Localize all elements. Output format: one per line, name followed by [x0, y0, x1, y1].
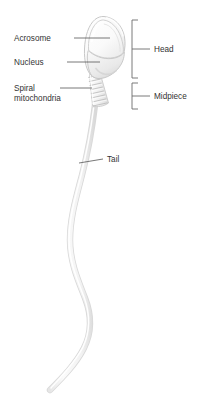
sperm-cell-illustration [50, 16, 125, 390]
tail-stroke-inner [50, 105, 95, 390]
spiral-mitochondria-label-line2: mitochondria [14, 94, 61, 103]
head-label: Head [154, 45, 174, 54]
acrosome-label: Acrosome [14, 34, 51, 43]
sperm-head [84, 16, 125, 78]
sperm-diagram-canvas: Acrosome Nucleus Spiral mitochondria Tai… [0, 0, 211, 409]
sperm-diagram-figure: Acrosome Nucleus Spiral mitochondria Tai… [0, 0, 211, 409]
region-brackets-group [132, 20, 150, 109]
tail-flagellum [50, 105, 95, 390]
nucleus-label: Nucleus [14, 58, 44, 67]
midpiece-label: Midpiece [154, 92, 187, 101]
tail-label: Tail [107, 155, 119, 164]
spiral-mitochondria-label-line1: Spiral [14, 84, 35, 93]
